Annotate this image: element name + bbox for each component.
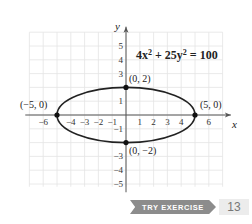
svg-text:(0, 2): (0, 2) — [129, 73, 151, 85]
svg-text:−3: −3 — [80, 117, 90, 127]
svg-text:−3: −3 — [113, 151, 123, 161]
svg-text:−4: −4 — [66, 117, 76, 127]
svg-text:2: 2 — [151, 117, 156, 127]
x-axis-label: x — [231, 118, 237, 130]
y-axis-label: y — [114, 20, 120, 32]
svg-text:−2: −2 — [94, 117, 104, 127]
svg-text:−4: −4 — [113, 165, 123, 175]
svg-text:(0, −2): (0, −2) — [129, 145, 156, 157]
svg-text:−6: −6 — [38, 117, 48, 127]
svg-text:3: 3 — [119, 69, 124, 79]
svg-text:5: 5 — [119, 41, 124, 51]
svg-text:−5: −5 — [113, 179, 123, 189]
ellipse-graph: −6−4−3−2−1123465431−1−3−4−5 (−5, 0)(5, 0… — [0, 0, 252, 224]
svg-text:3: 3 — [165, 117, 170, 127]
svg-text:(5, 0): (5, 0) — [200, 99, 222, 111]
svg-text:4: 4 — [119, 55, 124, 65]
svg-text:(−5, 0): (−5, 0) — [20, 99, 47, 111]
exercise-number: 13 — [219, 199, 249, 215]
svg-text:1: 1 — [138, 117, 143, 127]
svg-text:4: 4 — [179, 117, 184, 127]
svg-text:1: 1 — [119, 96, 124, 106]
svg-text:6: 6 — [207, 117, 212, 127]
try-exercise-label: TRY EXERCISE — [130, 200, 216, 214]
try-exercise-badge[interactable]: TRY EXERCISE 13 — [130, 200, 249, 214]
svg-text:−1: −1 — [113, 124, 123, 134]
